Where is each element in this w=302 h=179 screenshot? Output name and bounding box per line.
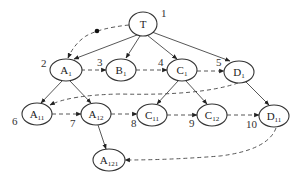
order-8: 8: [131, 117, 137, 129]
order-5: 5: [216, 56, 222, 68]
node-A12: A12: [81, 103, 111, 125]
tree-edges: [41, 32, 269, 149]
traverse-D11-A121: [125, 128, 276, 160]
node-A11: A11: [22, 103, 52, 125]
node-D1: D1: [224, 61, 254, 83]
node-C11: C11: [137, 104, 167, 126]
traverse-D1-A11: [50, 83, 238, 105]
node-C1: C1: [167, 59, 197, 81]
node-T: T: [129, 12, 157, 36]
traversal-edges: [50, 25, 276, 160]
order-4: 4: [158, 56, 164, 68]
node-C12: C12: [197, 104, 227, 126]
order-3: 3: [97, 56, 103, 68]
edge-A12-A121: [98, 125, 106, 149]
edge-A1-A11: [41, 81, 62, 103]
node-A121: A121: [93, 149, 125, 171]
edge-T-B1: [126, 36, 140, 58]
node-A1: A1: [50, 59, 82, 81]
edge-A1-A12: [70, 81, 91, 103]
tree-diagram: T A1 B1 C1 D1 A11 A12 C11 C12 D11 A121: [0, 0, 302, 179]
order-7: 7: [70, 117, 76, 129]
order-1: 1: [161, 7, 167, 19]
node-B1: B1: [106, 59, 136, 81]
edge-D1-D11: [246, 82, 269, 105]
order-9: 9: [189, 117, 195, 129]
start-dot-icon: [95, 29, 100, 34]
edge-C1-C11: [157, 81, 178, 104]
order-2: 2: [41, 57, 47, 69]
svg-text:T: T: [140, 18, 147, 30]
order-10: 10: [246, 118, 258, 130]
order-6: 6: [12, 115, 18, 127]
node-D11: D11: [259, 105, 289, 127]
